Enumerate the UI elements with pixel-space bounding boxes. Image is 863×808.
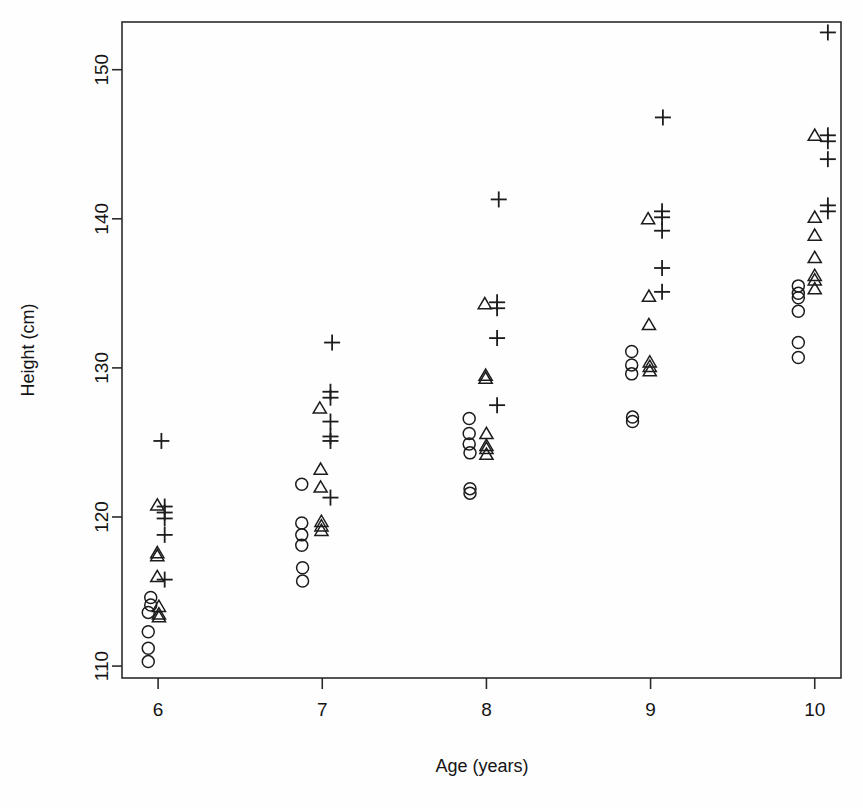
point-triangle	[642, 290, 655, 301]
point-circle	[626, 345, 638, 357]
point-triangle	[480, 427, 493, 438]
point-circle	[792, 305, 804, 317]
x-axis-label: Age (years)	[435, 756, 528, 776]
y-tick-label: 120	[92, 501, 113, 533]
x-tick-label: 10	[804, 699, 825, 720]
point-circle	[296, 478, 308, 490]
plot-frame	[122, 22, 841, 678]
point-triangle	[808, 229, 821, 240]
series-circle	[142, 280, 804, 668]
point-triangle	[151, 499, 164, 510]
point-circle	[792, 337, 804, 349]
point-triangle	[642, 318, 655, 329]
point-triangle	[808, 211, 821, 222]
x-axis-ticks: 678910	[153, 678, 825, 720]
x-tick-label: 8	[481, 699, 492, 720]
x-tick-label: 9	[645, 699, 656, 720]
point-circle	[792, 351, 804, 363]
point-circle	[142, 656, 154, 668]
point-circle	[142, 626, 154, 638]
point-circle	[296, 517, 308, 529]
point-circle	[463, 413, 475, 425]
point-circle	[464, 447, 476, 459]
x-tick-label: 7	[317, 699, 328, 720]
point-circle	[297, 575, 309, 587]
y-tick-label: 150	[92, 54, 113, 86]
point-circle	[626, 368, 638, 380]
point-triangle	[314, 463, 327, 474]
series-plus	[153, 24, 835, 587]
point-triangle	[314, 481, 327, 492]
scatter-plot: 110120130140150 678910 Height (cm) Age (…	[0, 0, 863, 808]
point-circle	[145, 599, 157, 611]
y-tick-label: 140	[92, 203, 113, 235]
point-triangle	[642, 213, 655, 224]
data-points-layer	[142, 24, 836, 667]
point-triangle	[313, 402, 326, 413]
point-circle	[142, 606, 154, 618]
y-tick-label: 130	[92, 352, 113, 384]
point-triangle	[808, 251, 821, 262]
y-tick-label: 110	[92, 651, 113, 681]
x-tick-label: 6	[153, 699, 164, 720]
y-axis-ticks: 110120130140150	[92, 54, 123, 681]
series-triangle	[151, 129, 822, 622]
point-triangle	[808, 129, 821, 140]
chart-canvas: 110120130140150 678910 Height (cm) Age (…	[0, 0, 863, 808]
point-circle	[297, 562, 309, 574]
point-circle	[142, 642, 154, 654]
y-axis-label: Height (cm)	[18, 303, 38, 396]
